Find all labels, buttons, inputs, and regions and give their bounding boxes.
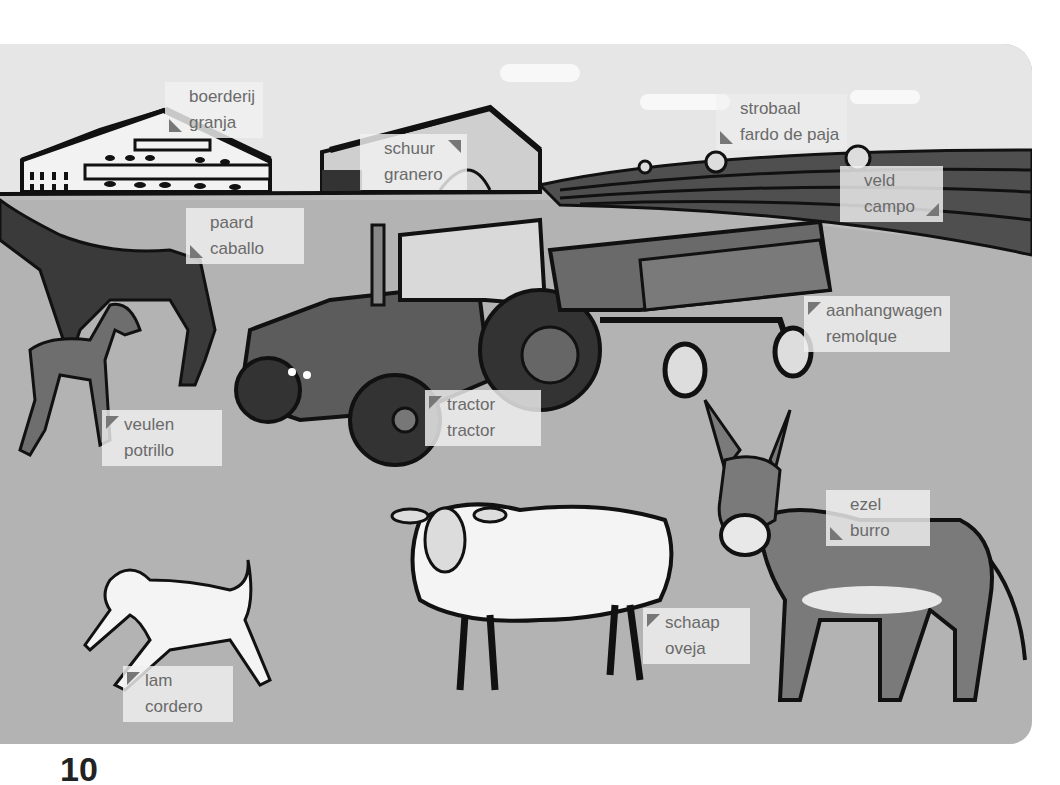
label-spanish: cordero (145, 694, 203, 720)
pointer-marker-icon (127, 672, 140, 685)
label-spanish: oveja (665, 636, 720, 662)
pointer-marker-icon (190, 245, 203, 258)
label-spanish: burro (850, 518, 890, 544)
pointer-marker-icon (830, 527, 843, 540)
label-dutch: aanhangwagen (826, 298, 942, 324)
label-dutch: paard (210, 210, 264, 236)
pointer-marker-icon (720, 131, 733, 144)
pointer-marker-icon (448, 140, 461, 153)
label-spanish: campo (864, 194, 915, 220)
label-dutch: lam (145, 668, 203, 694)
label-spanish: granja (189, 110, 255, 136)
label-spanish: caballo (210, 236, 264, 262)
pointer-marker-icon (926, 203, 939, 216)
label-dutch: schaap (665, 610, 720, 636)
label-barn: schuur granero (360, 134, 467, 190)
label-dutch: ezel (850, 492, 890, 518)
label-donkey: ezel burro (826, 490, 930, 546)
label-spanish: granero (384, 162, 443, 188)
label-field: veld campo (840, 166, 943, 222)
pointer-marker-icon (106, 416, 119, 429)
label-sheep: schaap oveja (643, 608, 750, 664)
label-dutch: veld (864, 168, 915, 194)
label-trailer: aanhangwagen remolque (804, 296, 950, 352)
pointer-marker-icon (647, 614, 660, 627)
label-farm: boerderij granja (165, 82, 263, 138)
label-dutch: strobaal (740, 96, 839, 122)
label-tractor: tractor tractor (425, 390, 541, 446)
page-number: 10 (60, 752, 98, 785)
label-spanish: tractor (447, 418, 495, 444)
label-spanish: remolque (826, 324, 942, 350)
pointer-marker-icon (169, 119, 182, 132)
label-foal: veulen potrillo (102, 410, 222, 466)
label-spanish: fardo de paja (740, 122, 839, 148)
label-spanish: potrillo (124, 438, 174, 464)
label-dutch: tractor (447, 392, 495, 418)
label-dutch: veulen (124, 412, 174, 438)
pointer-marker-icon (808, 302, 821, 315)
pointer-marker-icon (429, 396, 442, 409)
label-bale: strobaal fardo de paja (716, 94, 847, 150)
label-horse: paard caballo (186, 208, 304, 264)
label-lamb: lam cordero (123, 666, 233, 722)
label-dutch: schuur (384, 136, 443, 162)
label-dutch: boerderij (189, 84, 255, 110)
